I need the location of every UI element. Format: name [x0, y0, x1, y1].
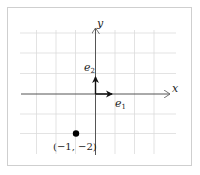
point-marker	[73, 130, 79, 136]
grid	[20, 30, 176, 154]
point-label: (−1, −2)	[53, 141, 97, 152]
e1-label: e1	[115, 97, 126, 111]
x-axis-label: x	[172, 82, 179, 95]
coordinate-plane: x y e1 e2 (−1, −2)	[0, 0, 200, 175]
e2-label: e2	[84, 61, 95, 75]
y-axis-label: y	[96, 17, 104, 30]
